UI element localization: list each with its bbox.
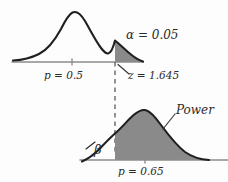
power-shaded-region <box>115 110 209 160</box>
alternative-distribution-group <box>80 110 228 164</box>
null-distribution-group <box>12 12 143 66</box>
beta-label: β <box>94 143 102 156</box>
alpha-label: α = 0.05 <box>126 29 179 41</box>
power-diagram: α = 0.05 z = 1.645 p = 0.5 β p = 0.65 Po… <box>0 0 228 182</box>
diagram-canvas <box>0 0 228 182</box>
critical-value-label: z = 1.645 <box>128 70 179 81</box>
power-leader-line <box>163 114 175 129</box>
null-center-label: p = 0.5 <box>44 70 83 81</box>
alternative-center-label: p = 0.65 <box>118 166 164 177</box>
power-label: Power <box>176 104 214 116</box>
